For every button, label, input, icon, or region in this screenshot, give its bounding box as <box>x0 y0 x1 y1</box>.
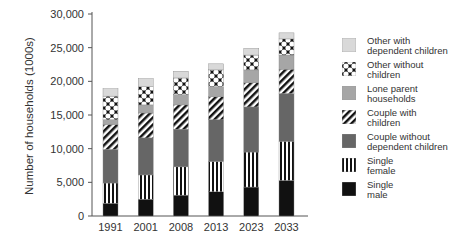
bar-segment <box>173 78 188 95</box>
y-tick-label: 25,000 <box>50 42 84 54</box>
bar-segment <box>209 64 224 70</box>
bar-segment <box>279 93 294 141</box>
legend-label: Other withoutchildren <box>367 60 464 80</box>
legend-swatch-solid-black <box>342 182 356 196</box>
x-tick-label: 2033 <box>274 221 298 233</box>
legend-label: Singlemale <box>367 180 464 200</box>
bar-2013 <box>209 64 224 216</box>
bars-group <box>103 33 294 216</box>
bar-segment <box>209 87 224 97</box>
bar-1991 <box>103 89 118 216</box>
bar-segment <box>138 138 153 175</box>
bar-segment <box>103 124 118 149</box>
y-tick-label: 5,000 <box>56 176 84 188</box>
bar-2001 <box>138 79 153 216</box>
legend-item: Other withdependent children <box>342 36 464 60</box>
bar-segment <box>173 195 188 216</box>
y-tick-label: 20,000 <box>50 75 84 87</box>
bar-segment <box>138 199 153 216</box>
legend: Other withdependent childrenOther withou… <box>342 36 464 204</box>
legend-item: Singlemale <box>342 180 464 204</box>
bar-2023 <box>244 48 259 216</box>
bar-segment <box>103 96 118 120</box>
bar-segment <box>279 180 294 216</box>
y-axis: 05,00010,00015,00020,00025,00030,000 <box>50 8 92 222</box>
y-tick-label: 30,000 <box>50 8 84 20</box>
legend-label: Singlefemale <box>367 156 464 176</box>
bar-segment <box>173 95 188 105</box>
bar-segment <box>209 161 224 191</box>
y-axis-label: Number of households (1000s) <box>23 37 35 195</box>
bar-segment <box>209 120 224 162</box>
legend-item: Couple withoutdependent children <box>342 132 464 156</box>
legend-label: Couple withoutdependent children <box>367 132 464 152</box>
bar-segment <box>103 203 118 216</box>
bar-2033 <box>279 33 294 216</box>
y-tick-label: 0 <box>78 210 84 222</box>
bar-segment <box>103 120 118 125</box>
legend-label: Other withdependent children <box>367 36 464 56</box>
legend-item: Couple withchildren <box>342 108 464 132</box>
bar-segment <box>173 71 188 78</box>
bar-segment <box>173 167 188 195</box>
bar-segment <box>279 141 294 180</box>
bar-segment <box>173 105 188 129</box>
bar-segment <box>138 105 153 113</box>
bar-segment <box>209 192 224 216</box>
x-tick-label: 2013 <box>204 221 228 233</box>
bar-segment <box>279 55 294 69</box>
legend-swatch-vertical-stripes <box>342 158 356 172</box>
bar-segment <box>244 48 259 55</box>
legend-swatch-diagonal-stripes <box>342 110 356 124</box>
bar-segment <box>279 39 294 55</box>
legend-label: Couple withchildren <box>367 108 464 128</box>
legend-item: Other withoutchildren <box>342 60 464 84</box>
bar-segment <box>138 87 153 105</box>
bar-segment <box>138 79 153 87</box>
bar-segment <box>103 89 118 96</box>
legend-swatch-mid-gray <box>342 86 356 100</box>
x-tick-label: 2008 <box>169 221 193 233</box>
bar-segment <box>209 70 224 87</box>
bar-segment <box>244 107 259 152</box>
bar-segment <box>244 83 259 107</box>
bar-2008 <box>173 71 188 216</box>
x-tick-label: 2023 <box>239 221 263 233</box>
y-tick-label: 10,000 <box>50 143 84 155</box>
bar-segment <box>138 175 153 199</box>
bar-segment <box>138 113 153 138</box>
bar-segment <box>244 55 259 70</box>
legend-label: Lone parenthouseholds <box>367 84 464 104</box>
bar-segment <box>244 187 259 216</box>
legend-swatch-dark-gray <box>342 134 356 148</box>
legend-item: Singlefemale <box>342 156 464 180</box>
bar-segment <box>244 152 259 187</box>
x-tick-label: 2001 <box>133 221 157 233</box>
y-tick-label: 15,000 <box>50 109 84 121</box>
bar-segment <box>173 129 188 167</box>
x-axis: 199120012008201320232033 <box>92 216 308 233</box>
x-tick-label: 1991 <box>98 221 122 233</box>
legend-swatch-black-white-lattice <box>342 62 356 76</box>
legend-item: Lone parenthouseholds <box>342 84 464 108</box>
bar-segment <box>244 70 259 83</box>
bar-segment <box>103 183 118 203</box>
legend-swatch-light-gray <box>342 38 356 52</box>
bar-segment <box>209 97 224 120</box>
bar-segment <box>103 149 118 183</box>
bar-segment <box>279 69 294 93</box>
bar-segment <box>279 33 294 39</box>
